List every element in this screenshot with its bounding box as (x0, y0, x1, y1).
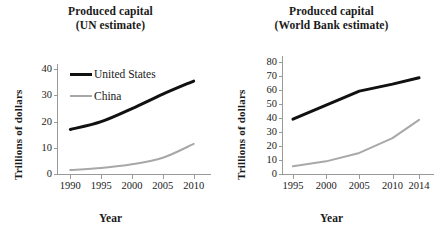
x-tick (326, 175, 327, 179)
y-tick-label: 20 (249, 141, 277, 151)
y-tick (279, 62, 283, 63)
x-axis-line (57, 174, 211, 175)
y-tick-label: 20 (24, 117, 52, 127)
y-axis-line (57, 64, 58, 175)
y-tick (54, 122, 58, 123)
chart-title-worldbank: Produced capital (World Bank estimate) (221, 4, 442, 32)
y-tick-label: 30 (249, 127, 277, 137)
y-axis-label-un: Trillions of dollars (12, 89, 24, 180)
chart-title-worldbank-line1: Produced capital (221, 4, 442, 18)
y-tick-label: 50 (249, 99, 277, 109)
x-tick (359, 175, 360, 179)
y-tick-label: 0 (249, 169, 277, 179)
legend-label-united-states: United States (94, 68, 156, 80)
series-line-united-states (293, 78, 419, 119)
plot-area-un (58, 64, 206, 174)
chart-title-un-line1: Produced capital (0, 4, 221, 18)
series-line-china (70, 144, 193, 170)
x-tick-label: 2000 (308, 181, 344, 191)
y-tick-label: 40 (249, 113, 277, 123)
y-tick (279, 132, 283, 133)
y-axis-line (282, 56, 283, 175)
y-tick-label: 70 (249, 71, 277, 81)
chart-title-worldbank-line2: (World Bank estimate) (221, 18, 442, 32)
series-layer-un (58, 64, 206, 174)
x-tick-label: 2005 (341, 181, 377, 191)
x-tick (163, 175, 164, 179)
x-tick (70, 175, 71, 179)
figure-root: Produced capital (UN estimate) Trillions… (0, 0, 442, 237)
y-tick-label: 60 (249, 85, 277, 95)
x-tick (293, 175, 294, 179)
y-tick (54, 174, 58, 175)
y-tick (279, 118, 283, 119)
x-tick-label: 2014 (401, 181, 437, 191)
y-tick (54, 69, 58, 70)
y-tick-label: 80 (249, 57, 277, 67)
y-tick-label: 10 (249, 155, 277, 165)
x-tick (132, 175, 133, 179)
legend-swatch-china-icon (70, 95, 92, 97)
x-axis-line (282, 174, 434, 175)
y-tick (54, 95, 58, 96)
y-tick (279, 146, 283, 147)
series-layer-worldbank (283, 56, 429, 174)
legend-swatch-united-states-icon (70, 73, 92, 76)
x-tick (194, 175, 195, 179)
chart-panel-worldbank: Produced capital (World Bank estimate) T… (221, 0, 442, 237)
x-axis-label-worldbank: Year (221, 212, 442, 224)
y-tick (279, 174, 283, 175)
plot-area-worldbank (283, 56, 429, 174)
series-line-china (293, 120, 419, 166)
y-tick-label: 40 (24, 64, 52, 74)
chart-panel-un: Produced capital (UN estimate) Trillions… (0, 0, 221, 237)
y-tick-label: 10 (24, 143, 52, 153)
x-tick (419, 175, 420, 179)
series-line-united-states (70, 81, 193, 129)
legend-label-china: China (94, 90, 121, 102)
y-tick-label: 0 (24, 169, 52, 179)
chart-title-un: Produced capital (UN estimate) (0, 4, 221, 32)
y-tick (279, 90, 283, 91)
x-tick-label: 1995 (275, 181, 311, 191)
y-tick (54, 148, 58, 149)
y-axis-label-worldbank: Trillions of dollars (235, 89, 247, 180)
x-axis-label-un: Year (0, 212, 221, 224)
y-tick (279, 160, 283, 161)
y-tick (279, 104, 283, 105)
x-tick (393, 175, 394, 179)
chart-title-un-line2: (UN estimate) (0, 18, 221, 32)
x-tick (101, 175, 102, 179)
x-tick-label: 2010 (176, 181, 212, 191)
y-tick-label: 30 (24, 90, 52, 100)
y-tick (279, 76, 283, 77)
